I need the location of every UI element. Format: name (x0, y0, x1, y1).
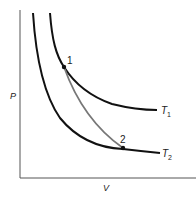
point-2-marker (121, 146, 125, 150)
isotherm-t2-label: T2 (162, 148, 172, 161)
isotherm-t1-label: T1 (161, 105, 171, 118)
isotherm-t2-subscript: 2 (168, 154, 172, 161)
point-1-marker (62, 65, 66, 69)
pv-diagram: 1 2 T1 T2 P V (0, 0, 196, 203)
point-2-label: 2 (120, 134, 126, 145)
isotherm-t1-subscript: 1 (167, 111, 171, 118)
y-axis-label: P (10, 91, 16, 101)
point-1-label: 1 (67, 55, 73, 66)
x-axis-label: V (103, 183, 110, 193)
